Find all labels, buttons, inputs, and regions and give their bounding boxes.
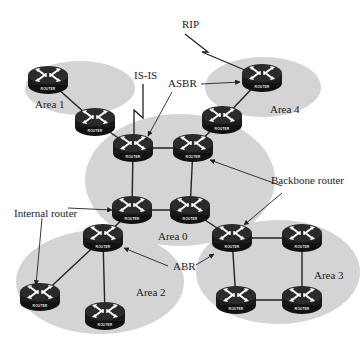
area3-label: Area 3 <box>314 269 344 281</box>
backbone-router-label: Backbone router <box>271 174 344 186</box>
router-icon <box>242 64 282 92</box>
area0-label: Area 0 <box>158 230 188 242</box>
area2-label: Area 2 <box>136 286 166 298</box>
area4-label: Area 4 <box>270 103 300 115</box>
rip-label: RIP <box>182 18 199 30</box>
router-icon <box>112 196 152 224</box>
router-icon <box>83 224 123 252</box>
internal-router-label: Internal router <box>14 207 78 219</box>
asbr-label: ASBR <box>168 77 197 89</box>
router-icon <box>170 196 210 224</box>
router-icon <box>173 134 213 162</box>
router-icon <box>20 283 60 311</box>
abr-label: ABR <box>173 260 196 272</box>
router-icon <box>85 302 125 330</box>
router-icon <box>216 286 256 314</box>
router-icon <box>28 66 68 94</box>
router-icon <box>75 108 115 136</box>
router-icon <box>282 286 322 314</box>
ospf-network-diagram: ROUTER RIP IS-IS ASBR Backbone router In… <box>0 0 362 347</box>
isis-label: IS-IS <box>134 69 157 81</box>
router-icon <box>212 224 252 252</box>
router-icon <box>202 106 242 134</box>
area1-label: Area 1 <box>35 98 65 110</box>
router-icon <box>113 134 153 162</box>
router-icon <box>282 224 322 252</box>
